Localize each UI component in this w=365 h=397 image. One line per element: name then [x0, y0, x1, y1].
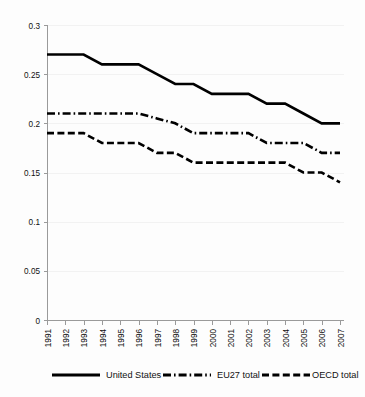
- x-tick-label: 1992: [62, 329, 71, 348]
- x-tick-label: 1996: [135, 329, 144, 348]
- x-tick-label: 1999: [190, 329, 199, 348]
- gridlines: [47, 26, 344, 321]
- y-tick-label: 0.15: [24, 169, 40, 178]
- x-tick-label: 1995: [117, 329, 126, 348]
- series-lines: [47, 55, 340, 183]
- y-tick-label: 0.3: [29, 22, 41, 31]
- chart-legend: United StatesEU27 totalOECD total: [52, 370, 358, 380]
- series-line-oecd-total: [47, 133, 340, 182]
- legend-label: OECD total: [312, 370, 358, 380]
- legend-label: United States: [106, 370, 162, 380]
- x-tick-label: 1994: [99, 329, 108, 348]
- line-chart: 0.30.250.20.150.10.050 19911992199319941…: [0, 0, 365, 397]
- x-tick-label: 2001: [227, 329, 236, 348]
- series-line-eu27-total: [47, 114, 340, 153]
- y-tick-label: 0.25: [24, 71, 40, 80]
- x-tick-label: 1998: [172, 329, 181, 348]
- y-tick-label: 0: [35, 317, 40, 326]
- y-tick-label: 0.2: [29, 120, 41, 129]
- series-line-united-states: [47, 55, 340, 124]
- x-tick-label: 2005: [300, 329, 309, 348]
- x-tick-label: 1991: [44, 329, 53, 348]
- x-tick-label: 2007: [337, 329, 346, 348]
- x-tick-label: 2002: [245, 329, 254, 348]
- x-tick-label: 2003: [263, 329, 272, 348]
- x-tick-label: 2000: [209, 329, 218, 348]
- x-tick-label: 2004: [282, 329, 291, 348]
- x-tick-label: 2006: [318, 329, 327, 348]
- x-tick-label: 1997: [154, 329, 163, 348]
- y-tick-label: 0.1: [29, 218, 41, 227]
- x-tick-label: 1993: [80, 329, 89, 348]
- chart-canvas: 0.30.250.20.150.10.050 19911992199319941…: [0, 0, 365, 397]
- x-axis: 1991199219931994199519961997199819992000…: [44, 321, 346, 348]
- y-tick-label: 0.05: [24, 267, 40, 276]
- legend-label: EU27 total: [217, 370, 260, 380]
- y-axis: 0.30.250.20.150.10.050: [24, 22, 47, 326]
